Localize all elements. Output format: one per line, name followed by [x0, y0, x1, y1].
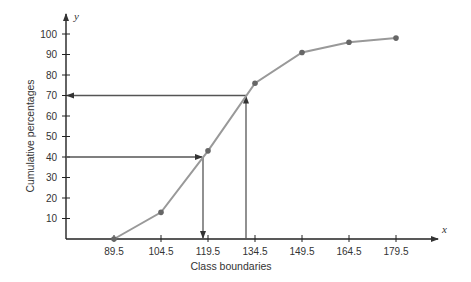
guide-arrows	[66, 96, 246, 240]
y-tick-label: 10	[46, 213, 58, 224]
chart-canvas: 102030405060708090100 89.5104.5119.5134.…	[0, 0, 471, 282]
y-tick-label: 50	[46, 131, 58, 142]
axes	[66, 14, 438, 239]
data-point	[205, 148, 211, 154]
y-variable-label: y	[73, 10, 79, 22]
x-tick-label: 134.5	[242, 246, 267, 257]
ogive-chart: 102030405060708090100 89.5104.5119.5134.…	[0, 0, 471, 282]
data-point	[393, 35, 399, 41]
x-variable-label: x	[441, 223, 447, 235]
x-axis-label: Class boundaries	[190, 260, 271, 272]
x-tick-label: 149.5	[289, 246, 314, 257]
y-tick-label: 60	[46, 111, 58, 122]
data-point	[158, 210, 164, 216]
y-tick-label: 100	[40, 29, 57, 40]
data-point	[111, 236, 117, 242]
x-tick-label: 104.5	[148, 246, 173, 257]
data-point	[299, 50, 305, 56]
data-point	[346, 39, 352, 45]
x-tick-label: 89.5	[104, 246, 124, 257]
y-tick-label: 70	[46, 90, 58, 101]
y-tick-label: 20	[46, 193, 58, 204]
y-tick-label: 90	[46, 49, 58, 60]
ogive-line	[114, 38, 396, 239]
x-tick-label: 179.5	[383, 246, 408, 257]
y-tick-label: 80	[46, 70, 58, 81]
data-point	[252, 80, 258, 86]
x-tick-label: 119.5	[196, 246, 221, 257]
y-tick-label: 40	[46, 152, 58, 163]
ogive-series	[111, 35, 399, 242]
x-tick-label: 164.5	[336, 246, 361, 257]
y-axis-label: Cumulative percentages	[24, 79, 36, 192]
y-tick-label: 30	[46, 172, 58, 183]
